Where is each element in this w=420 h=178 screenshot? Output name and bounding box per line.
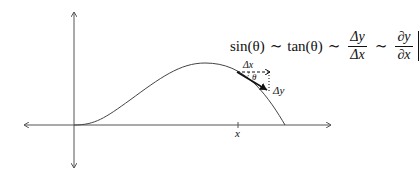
evaluation-bar: x <box>418 31 419 61</box>
diagram-canvas: Δx θ Δy x sin(θ) ∼ tan(θ) ∼ Δy Δx ∼ ∂y ∂… <box>0 0 420 178</box>
fraction-numerator: ∂y <box>395 30 412 47</box>
sim-symbol: ∼ <box>375 37 388 55</box>
difference-quotient: Δy Δx <box>348 30 366 62</box>
delta-y-label: Δy <box>273 85 284 96</box>
diagram-graphics <box>0 0 420 178</box>
approximation-formula: sin(θ) ∼ tan(θ) ∼ Δy Δx ∼ ∂y ∂x x <box>230 30 419 62</box>
x-tick-label: x <box>235 128 240 139</box>
tan-term: tan(θ) <box>287 38 323 55</box>
fraction-numerator: Δy <box>348 30 366 47</box>
fraction-denominator: Δx <box>350 47 364 63</box>
sim-symbol: ∼ <box>328 37 341 55</box>
sim-symbol: ∼ <box>270 37 283 55</box>
partial-derivative: ∂y ∂x <box>395 30 412 62</box>
theta-label: θ <box>252 73 256 82</box>
fraction-denominator: ∂x <box>397 47 410 63</box>
sin-term: sin(θ) <box>230 38 265 55</box>
